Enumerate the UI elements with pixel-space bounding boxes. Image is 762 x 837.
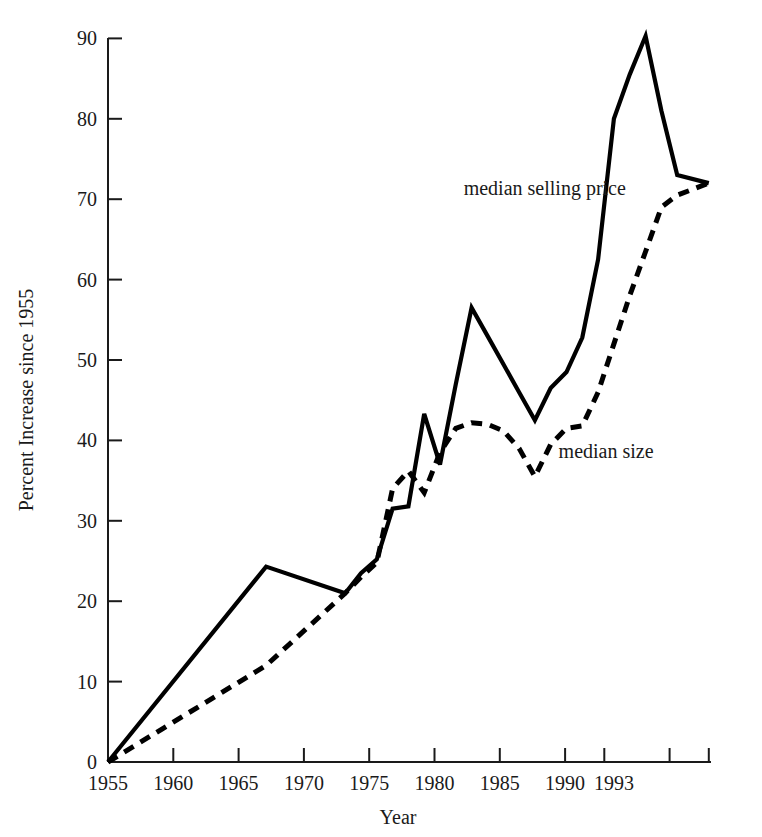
y-axis-ticks	[108, 38, 122, 762]
x-tick-label-1965: 1965	[219, 772, 259, 794]
y-tick-label-20: 20	[77, 590, 97, 612]
x-tick-label-1993: 1993	[594, 772, 634, 794]
y-tick-label-30: 30	[77, 510, 97, 532]
y-tick-label-70: 70	[77, 188, 97, 210]
x-tick-label-1960: 1960	[153, 772, 193, 794]
y-tick-label-90: 90	[77, 27, 97, 49]
y-tick-label-60: 60	[77, 269, 97, 291]
x-tick-label-1955: 1955	[88, 772, 128, 794]
annotation-median-selling-price: median selling price	[464, 177, 626, 200]
line-chart-figure: 0 10 20 30 40 50 60 70 80 90 1955 1960 1…	[0, 0, 762, 837]
y-tick-label-0: 0	[87, 751, 97, 773]
x-tick-label-1970: 1970	[284, 772, 324, 794]
y-tick-label-40: 40	[77, 429, 97, 451]
y-tick-label-10: 10	[77, 671, 97, 693]
series-median-selling-price	[108, 36, 709, 762]
annotation-median-size: median size	[559, 440, 654, 462]
x-tick-label-1980: 1980	[415, 772, 455, 794]
x-axis-ticks	[108, 748, 709, 762]
series-median-size	[108, 183, 709, 762]
y-axis-title: Percent Increase since 1955	[15, 289, 37, 512]
x-tick-label-1975: 1975	[349, 772, 389, 794]
x-tick-label-1990: 1990	[545, 772, 585, 794]
x-axis-title: Year	[380, 806, 417, 828]
y-tick-label-80: 80	[77, 108, 97, 130]
chart-canvas: 0 10 20 30 40 50 60 70 80 90 1955 1960 1…	[0, 0, 762, 837]
x-tick-label-1985: 1985	[480, 772, 520, 794]
y-tick-label-50: 50	[77, 349, 97, 371]
